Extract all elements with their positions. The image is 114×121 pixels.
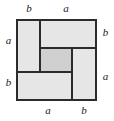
center-square (41, 49, 71, 71)
bottom-left-rectangle (17, 73, 71, 100)
dimension-label-bottom-right: b (78, 105, 90, 116)
dimension-label-left-upper: a (3, 35, 14, 46)
dimension-label-right-lower: a (100, 71, 111, 82)
bottom-right-rectangle (73, 49, 96, 100)
top-right-rectangle (41, 20, 96, 47)
square-dissection-diagram (0, 0, 114, 121)
dimension-label-bottom-left: a (42, 105, 54, 116)
dimension-label-top-left: b (23, 3, 35, 14)
dimension-label-left-lower: b (3, 77, 14, 88)
pinwheel-square-figure: b a a b b a a b (0, 0, 114, 121)
dimension-label-right-upper: b (100, 27, 111, 38)
dimension-label-top-right: a (60, 3, 72, 14)
top-left-rectangle (17, 20, 39, 71)
